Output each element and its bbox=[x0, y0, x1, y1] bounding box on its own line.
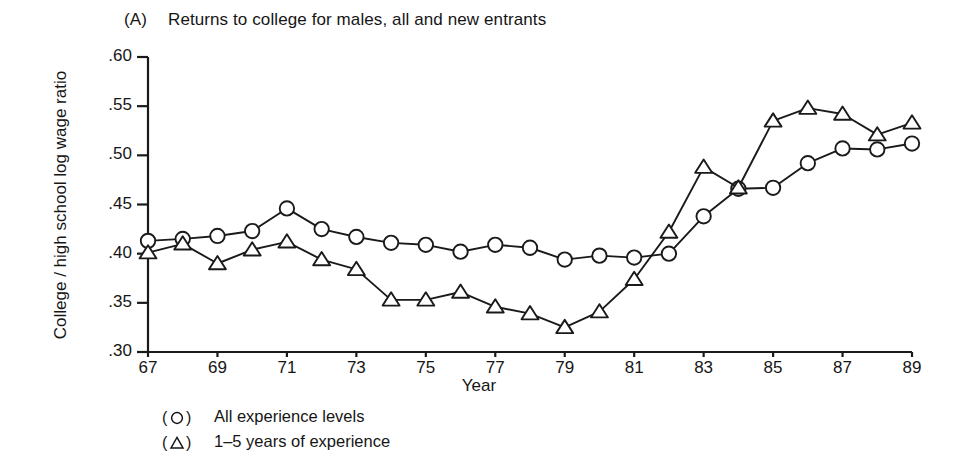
data-point-triangle bbox=[869, 127, 886, 140]
data-point-circle bbox=[801, 156, 815, 170]
data-point-triangle bbox=[278, 234, 295, 247]
legend-item-all: () All experience levels bbox=[160, 404, 390, 429]
data-point-circle bbox=[419, 238, 433, 252]
data-point-triangle bbox=[904, 115, 921, 128]
svg-text:): ) bbox=[186, 409, 191, 426]
svg-text:(: ( bbox=[162, 409, 168, 426]
svg-text:): ) bbox=[186, 434, 191, 451]
data-point-circle bbox=[662, 246, 676, 260]
data-point-circle bbox=[835, 141, 849, 155]
data-point-circle bbox=[245, 224, 259, 238]
data-point-circle bbox=[766, 181, 780, 195]
data-point-circle bbox=[349, 230, 363, 244]
data-point-circle bbox=[558, 252, 572, 266]
series-new-entrants bbox=[140, 101, 921, 334]
data-point-circle bbox=[696, 209, 710, 223]
series-all-experience bbox=[141, 136, 919, 266]
svg-text:(: ( bbox=[162, 434, 168, 451]
data-point-circle bbox=[627, 250, 641, 264]
data-point-circle bbox=[314, 222, 328, 236]
chart-legend: () All experience levels () 1–5 years of… bbox=[160, 404, 390, 454]
data-point-circle bbox=[384, 236, 398, 250]
circle-marker-icon: () bbox=[160, 404, 214, 429]
data-point-circle bbox=[488, 238, 502, 252]
data-point-circle bbox=[870, 142, 884, 156]
figure-panel-a: (A)Returns to college for males, all and… bbox=[0, 0, 958, 472]
legend-label-all: All experience levels bbox=[214, 404, 364, 429]
series-line bbox=[148, 108, 912, 327]
data-point-triangle bbox=[626, 272, 643, 285]
data-point-circle bbox=[453, 245, 467, 259]
legend-item-new-entrants: () 1–5 years of experience bbox=[160, 429, 390, 454]
data-point-triangle bbox=[695, 160, 712, 173]
data-point-triangle bbox=[765, 113, 782, 126]
legend-label-new-entrants: 1–5 years of experience bbox=[214, 429, 390, 454]
data-point-circle bbox=[592, 248, 606, 262]
data-point-triangle bbox=[452, 284, 469, 297]
triangle-marker-icon: () bbox=[160, 429, 214, 454]
data-point-circle bbox=[210, 229, 224, 243]
data-point-circle bbox=[280, 201, 294, 215]
data-point-circle bbox=[905, 136, 919, 150]
data-point-triangle bbox=[660, 224, 677, 237]
plot-area bbox=[0, 0, 958, 472]
data-point-triangle bbox=[313, 252, 330, 265]
data-point-triangle bbox=[487, 299, 504, 312]
data-point-triangle bbox=[556, 320, 573, 333]
data-point-triangle bbox=[799, 101, 816, 114]
data-point-circle bbox=[523, 241, 537, 255]
data-point-triangle bbox=[209, 256, 226, 269]
